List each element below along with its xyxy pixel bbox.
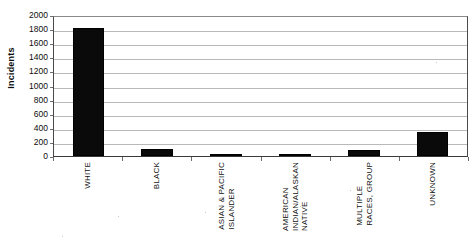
y-tick-label: 800 — [16, 96, 48, 105]
bars-layer — [54, 17, 467, 156]
bar-slot — [192, 17, 261, 156]
scan-speckle — [300, 206, 301, 207]
y-axis-tick-labels: 2000180016001400120010008006004002000 — [16, 16, 48, 157]
x-axis-label: AMERICANINDIAN/ALASKANNATIVE — [281, 162, 310, 231]
scan-speckle — [62, 236, 63, 237]
x-axis-label-line: WHITE — [83, 162, 93, 189]
y-tick-label: 400 — [16, 124, 48, 132]
bar — [141, 149, 173, 156]
y-tick-label: 1400 — [16, 54, 48, 63]
x-axis-label-line: ASIAN & PACIFIC — [216, 162, 226, 230]
y-tick-label: 600 — [16, 110, 48, 119]
x-label-slot: WHITE — [53, 162, 122, 245]
x-label-slot: MULTIPLERACES, GROUP — [330, 162, 399, 245]
plot-area — [53, 16, 468, 157]
x-tick-mark — [122, 157, 123, 161]
bar-slot — [123, 17, 192, 156]
scan-speckle — [436, 62, 437, 63]
y-tick-label: 0 — [16, 152, 48, 161]
y-tick-label: 1800 — [16, 25, 48, 34]
x-tick-mark — [191, 157, 192, 161]
x-axis-label-line: RACES, GROUP — [364, 162, 374, 226]
x-axis-label-line: UNKNOWN — [429, 162, 439, 206]
x-axis-label-line: BLACK — [152, 162, 162, 189]
x-tick-mark — [399, 157, 400, 161]
x-axis-label: BLACK — [152, 162, 162, 189]
bar — [348, 150, 380, 156]
bar-slot — [398, 17, 467, 156]
x-label-slot: AMERICANINDIAN/ALASKANNATIVE — [261, 162, 330, 245]
x-axis-label-line: MULTIPLE — [355, 162, 365, 226]
x-axis-label: ASIAN & PACIFICISLANDER — [216, 162, 235, 230]
y-axis-title: Incidents — [6, 33, 16, 103]
bar — [210, 154, 242, 156]
x-label-slot: ASIAN & PACIFICISLANDER — [191, 162, 260, 245]
x-axis-label-line: AMERICAN — [281, 162, 291, 231]
bar-chart: Incidents 200018001600140012001000800600… — [0, 0, 476, 245]
bar — [279, 154, 311, 156]
bar — [417, 132, 449, 156]
bar-slot — [329, 17, 398, 156]
x-axis-label-line: INDIAN/ALASKAN — [290, 162, 300, 231]
y-tick-label: 2000 — [16, 11, 48, 20]
y-tick-label: 200 — [16, 138, 48, 147]
y-tick-label: 1200 — [16, 68, 48, 77]
y-tick-label: 1600 — [16, 40, 48, 49]
scan-speckle — [205, 212, 206, 213]
bar-slot — [260, 17, 329, 156]
x-tick-mark — [330, 157, 331, 161]
x-tick-mark — [53, 157, 54, 161]
x-label-slot: UNKNOWN — [399, 162, 468, 245]
x-axis-label: WHITE — [83, 162, 93, 189]
x-axis-label: MULTIPLERACES, GROUP — [355, 162, 374, 226]
x-axis-category-labels: WHITEBLACKASIAN & PACIFICISLANDERAMERICA… — [53, 162, 468, 245]
x-label-slot: BLACK — [122, 162, 191, 245]
bar-slot — [54, 17, 123, 156]
scan-speckle — [350, 190, 351, 191]
x-axis-label-line: ISLANDER — [226, 162, 236, 230]
x-tick-mark — [261, 157, 262, 161]
bar — [73, 28, 105, 156]
x-tick-mark — [468, 157, 469, 161]
x-axis-label-line: NATIVE — [300, 162, 310, 231]
scan-speckle — [118, 216, 119, 217]
x-axis-label: UNKNOWN — [429, 162, 439, 206]
y-tick-label: 1000 — [16, 82, 48, 91]
